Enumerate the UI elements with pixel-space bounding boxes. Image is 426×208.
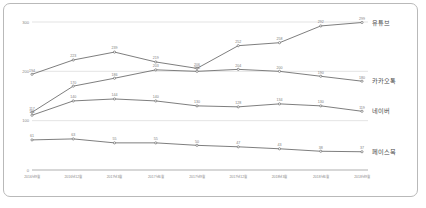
data-point-marker bbox=[155, 69, 157, 71]
data-point-marker bbox=[361, 151, 363, 153]
data-point-label: 43 bbox=[278, 143, 282, 147]
data-point-marker bbox=[361, 110, 363, 112]
data-point-marker bbox=[72, 138, 74, 140]
data-point-marker bbox=[155, 142, 157, 144]
data-point-marker bbox=[155, 61, 157, 63]
data-point-label: 252 bbox=[235, 40, 241, 44]
data-point-label: 258 bbox=[277, 37, 283, 41]
data-point-marker bbox=[278, 103, 280, 105]
x-tick-label: 2017년12월 bbox=[229, 174, 247, 179]
data-point-marker bbox=[237, 68, 239, 70]
data-point-label: 190 bbox=[318, 71, 324, 75]
x-tick-label: 2017년9월 bbox=[189, 174, 205, 179]
data-point-label: 140 bbox=[153, 95, 159, 99]
data-point-label: 55 bbox=[154, 137, 158, 141]
data-point-label: 219 bbox=[153, 56, 159, 60]
data-point-marker bbox=[72, 85, 74, 87]
data-point-label: 223 bbox=[70, 54, 76, 58]
data-point-label: 47 bbox=[236, 141, 240, 145]
series-label: 페이스북 bbox=[372, 148, 396, 156]
data-point-label: 204 bbox=[235, 64, 241, 68]
data-point-marker bbox=[278, 70, 280, 72]
series-name-labels: 유튜브카카오톡네이버페이스북 bbox=[372, 19, 396, 156]
data-point-label: 111 bbox=[29, 110, 34, 114]
data-point-label: 61 bbox=[30, 134, 34, 138]
data-point-marker bbox=[237, 146, 239, 148]
data-point-marker bbox=[320, 75, 322, 77]
series-label: 카카오톡 bbox=[372, 77, 396, 85]
x-tick-label: 2017년3월 bbox=[107, 174, 123, 179]
data-point-label: 119 bbox=[359, 106, 365, 110]
series-markers bbox=[31, 21, 363, 152]
data-point-marker bbox=[196, 144, 198, 146]
data-point-label: 140 bbox=[70, 95, 76, 99]
x-axis-tick-labels: 2016년9월2016년12월2017년3월2017년6월2017년9월2017… bbox=[24, 174, 370, 179]
data-point-marker bbox=[320, 25, 322, 27]
data-point-label: 180 bbox=[359, 76, 365, 80]
data-point-label: 128 bbox=[235, 101, 241, 105]
data-point-marker bbox=[196, 70, 198, 72]
data-point-label: 55 bbox=[113, 137, 117, 141]
data-point-label: 130 bbox=[318, 100, 324, 104]
data-point-marker bbox=[237, 106, 239, 108]
data-point-labels: 1942232392192062522582922991171701862032… bbox=[29, 17, 365, 150]
x-tick-label: 2018년3월 bbox=[272, 174, 288, 179]
series-label: 네이버 bbox=[372, 107, 390, 115]
y-tick-label: 0 bbox=[27, 168, 30, 173]
data-point-label: 200 bbox=[194, 66, 200, 70]
x-tick-label: 2017년6월 bbox=[148, 174, 164, 179]
data-point-marker bbox=[113, 98, 115, 100]
data-point-label: 144 bbox=[112, 93, 118, 97]
data-point-marker bbox=[361, 21, 363, 23]
data-point-label: 239 bbox=[112, 46, 118, 50]
data-point-marker bbox=[237, 45, 239, 47]
data-point-marker bbox=[113, 51, 115, 53]
series-label: 유튜브 bbox=[372, 19, 390, 27]
data-point-marker bbox=[113, 77, 115, 79]
data-point-label: 299 bbox=[359, 17, 365, 21]
data-point-label: 292 bbox=[318, 20, 324, 24]
y-tick-label: 100 bbox=[22, 118, 30, 123]
data-point-label: 38 bbox=[319, 146, 323, 150]
data-point-marker bbox=[278, 42, 280, 44]
chart-card: 0100200300 2016년9월2016년12월2017년3월2017년6월… bbox=[3, 3, 418, 197]
data-point-marker bbox=[113, 142, 115, 144]
data-point-marker bbox=[196, 105, 198, 107]
data-point-marker bbox=[320, 105, 322, 107]
data-point-marker bbox=[31, 114, 33, 116]
data-point-label: 37 bbox=[360, 146, 364, 150]
x-tick-label: 2018년9월 bbox=[354, 174, 370, 179]
data-point-label: 50 bbox=[195, 140, 199, 144]
data-point-marker bbox=[361, 80, 363, 82]
x-tick-label: 2018년6월 bbox=[313, 174, 329, 179]
data-point-marker bbox=[72, 59, 74, 61]
data-point-marker bbox=[31, 73, 33, 75]
data-point-marker bbox=[278, 148, 280, 150]
data-point-label: 170 bbox=[70, 81, 76, 85]
data-point-label: 200 bbox=[277, 66, 283, 70]
data-point-marker bbox=[31, 139, 33, 141]
x-tick-label: 2016년9월 bbox=[24, 174, 40, 179]
data-point-label: 134 bbox=[277, 98, 283, 102]
y-axis-tick-labels: 0100200300 bbox=[22, 20, 30, 173]
data-point-marker bbox=[72, 100, 74, 102]
data-point-marker bbox=[155, 100, 157, 102]
data-point-label: 203 bbox=[153, 64, 159, 68]
data-point-marker bbox=[320, 150, 322, 152]
data-point-label: 63 bbox=[71, 133, 75, 137]
line-chart: 0100200300 2016년9월2016년12월2017년3월2017년6월… bbox=[4, 4, 418, 197]
data-point-label: 186 bbox=[112, 73, 118, 77]
data-point-label: 130 bbox=[194, 100, 200, 104]
series-lines bbox=[32, 22, 362, 151]
x-tick-label: 2016년12월 bbox=[64, 174, 82, 179]
y-tick-label: 300 bbox=[22, 20, 30, 25]
data-point-label: 194 bbox=[29, 69, 35, 73]
